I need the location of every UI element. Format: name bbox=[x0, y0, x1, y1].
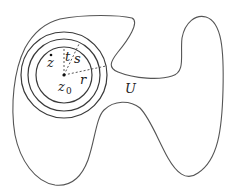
label-r: r bbox=[80, 72, 87, 87]
label-z: z bbox=[46, 55, 54, 70]
label-s: s bbox=[74, 51, 81, 66]
label-u: U bbox=[125, 81, 137, 96]
region-u-boundary bbox=[13, 16, 223, 186]
label-z0: z bbox=[57, 79, 65, 94]
label-z0-subscript: 0 bbox=[66, 86, 72, 96]
diagram-canvas: z t s r z 0 U bbox=[0, 0, 235, 194]
center-point bbox=[62, 73, 65, 76]
label-t: t bbox=[65, 49, 71, 64]
